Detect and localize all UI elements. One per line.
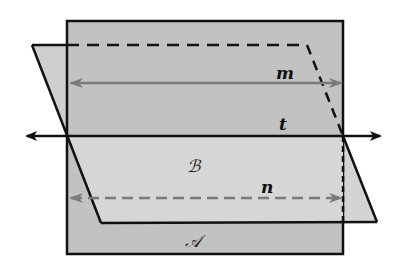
label-n: n (261, 177, 273, 197)
planes-diagram: m t n ℬ 𝒜 (0, 0, 397, 274)
plane-b-front-region (67, 136, 343, 223)
label-t: t (279, 114, 287, 134)
plane-b-bottom-edge (101, 222, 377, 223)
label-plane-b: ℬ (187, 156, 202, 176)
label-m: m (276, 63, 294, 83)
